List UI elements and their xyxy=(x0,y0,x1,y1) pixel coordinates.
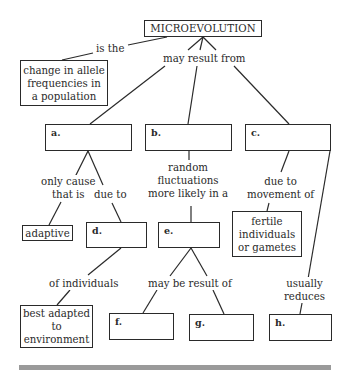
link-line-1: only cause xyxy=(41,175,96,188)
node-text: best adapted to environment xyxy=(23,307,90,346)
definition-text: change in allele frequencies in a popula… xyxy=(23,64,105,103)
link-line-1: due to xyxy=(247,175,314,188)
link-line-2: reduces xyxy=(284,290,325,303)
link-line-1: usually xyxy=(284,277,325,290)
blank-box-d[interactable]: d. xyxy=(86,222,147,248)
link-text: is the xyxy=(96,43,124,54)
link-may-be-result-of: may be result of xyxy=(148,277,232,290)
link-text: due to xyxy=(94,189,127,200)
blank-box-b[interactable]: b. xyxy=(145,124,232,151)
link-of-individuals: of individuals xyxy=(49,277,118,290)
blank-box-g[interactable]: g. xyxy=(189,314,254,341)
blank-box-e[interactable]: e. xyxy=(158,222,220,248)
link-may-result-from: may result from xyxy=(163,52,245,65)
link-text: may result from xyxy=(163,53,245,64)
link-random-fluctuations: random fluctuations more likely in a xyxy=(148,161,228,200)
node-adaptive: adaptive xyxy=(22,225,73,241)
blank-label-h: h. xyxy=(275,317,285,328)
node-best-adapted: best adapted to environment xyxy=(20,305,93,348)
root-label: MICROEVOLUTION xyxy=(150,22,256,35)
definition-node: change in allele frequencies in a popula… xyxy=(20,60,108,106)
blank-label-e: e. xyxy=(164,225,173,236)
blank-box-f[interactable]: f. xyxy=(109,313,174,340)
divider-bar xyxy=(19,365,331,370)
link-line-2: that is xyxy=(41,188,96,201)
blank-box-c[interactable]: c. xyxy=(245,124,331,151)
blank-box-a[interactable]: a. xyxy=(45,124,132,151)
link-due-to-movement-of: due to movement of xyxy=(247,175,314,201)
link-line-2: fluctuations xyxy=(148,174,228,187)
blank-label-b: b. xyxy=(151,127,161,138)
blank-label-f: f. xyxy=(115,316,122,327)
link-text: of individuals xyxy=(49,278,118,289)
blank-label-c: c. xyxy=(251,127,260,138)
root-node-microevolution: MICROEVOLUTION xyxy=(144,20,262,37)
node-text: fertile individuals or gametes xyxy=(235,215,299,254)
link-text: may be result of xyxy=(148,278,232,289)
blank-box-h[interactable]: h. xyxy=(269,314,332,341)
node-fertile-individuals: fertile individuals or gametes xyxy=(232,211,302,257)
blank-label-g: g. xyxy=(195,317,205,328)
link-usually-reduces: usually reduces xyxy=(284,277,325,303)
link-line-1: random xyxy=(148,161,228,174)
link-line-3: more likely in a xyxy=(148,187,228,200)
link-only-cause-that-is: only cause that is xyxy=(41,175,96,201)
link-line-2: movement of xyxy=(247,188,314,201)
link-is-the: is the xyxy=(96,42,124,55)
link-due-to-a: due to xyxy=(94,188,127,201)
node-text: adaptive xyxy=(25,227,69,240)
blank-label-d: d. xyxy=(92,225,102,236)
blank-label-a: a. xyxy=(51,127,60,138)
